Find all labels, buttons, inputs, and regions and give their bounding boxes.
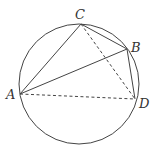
- segment-cb: [81, 24, 127, 49]
- segment-ad-dashed: [20, 94, 135, 99]
- point-label-d: D: [138, 96, 150, 111]
- segment-bd: [127, 49, 135, 99]
- segment-ac: [20, 24, 81, 94]
- point-label-b: B: [130, 40, 141, 55]
- segment-ab: [20, 49, 127, 94]
- circumcircle: [19, 24, 139, 144]
- point-label-c: C: [75, 7, 85, 22]
- segment-cd-dashed: [81, 24, 135, 99]
- geometry-diagram: ACBD: [0, 0, 158, 152]
- point-label-a: A: [5, 87, 15, 102]
